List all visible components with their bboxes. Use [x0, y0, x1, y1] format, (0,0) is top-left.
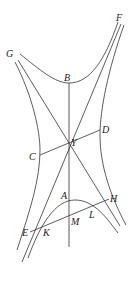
- label-y: Y: [71, 137, 78, 148]
- label-d: D: [101, 124, 110, 135]
- label-k: K: [42, 227, 51, 238]
- label-f: F: [115, 12, 123, 23]
- label-h: H: [109, 193, 118, 204]
- label-m: M: [70, 216, 80, 227]
- label-c: C: [29, 151, 36, 162]
- label-g: G: [6, 48, 13, 59]
- label-b: B: [64, 72, 70, 83]
- label-e: E: [21, 227, 28, 238]
- label-l: L: [88, 209, 95, 220]
- ordinate-eh: [30, 199, 109, 232]
- diameter-cd: [40, 130, 100, 155]
- label-a: A: [60, 190, 68, 201]
- hyperbola-diagram: G F B D C Y A H L M E K: [0, 0, 137, 282]
- lower-hyperbola: [28, 200, 118, 258]
